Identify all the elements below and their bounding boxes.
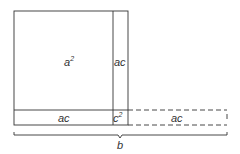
- label-a-squared: a2: [64, 55, 74, 68]
- label-b: b: [117, 139, 123, 151]
- outer-square: [14, 11, 128, 125]
- label-ac-bottom: ac: [58, 112, 70, 124]
- label-c-squared: c2: [113, 111, 123, 124]
- brace-b: [14, 132, 227, 138]
- completing-square-diagram: a2 ac ac c2 ac b: [0, 0, 240, 154]
- label-ac-dashed: ac: [171, 112, 183, 124]
- label-ac-right: ac: [114, 56, 126, 68]
